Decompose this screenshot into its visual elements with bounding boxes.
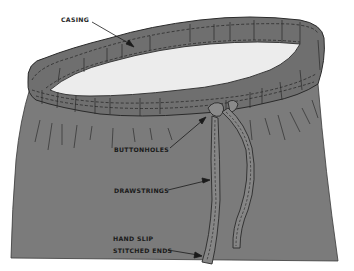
label-stitched-ends: STITCHED ENDS [113, 248, 172, 254]
label-buttonholes: BUTTONHOLES [114, 147, 169, 153]
garment-illustration [0, 0, 354, 271]
diagram-canvas: CASING BUTTONHOLES DRAWSTRINGS HAND SLIP… [0, 0, 354, 271]
label-hand-slip: HAND SLIP [113, 236, 153, 242]
label-drawstrings: DRAWSTRINGS [114, 188, 169, 194]
label-casing: CASING [61, 17, 89, 23]
